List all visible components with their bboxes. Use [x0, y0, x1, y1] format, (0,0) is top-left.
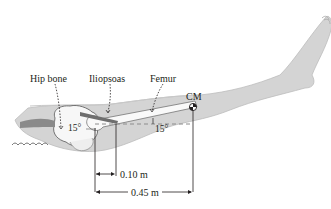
leg-diagram: Hip bone Iliopsoas Femur CM 15° 15° 0.10…: [0, 0, 331, 209]
cm-label: CM: [186, 91, 202, 102]
hip-bone-label: Hip bone: [30, 73, 68, 84]
femur-angle-label: 15°: [155, 124, 169, 134]
dim-0-45-label: 0.45 m: [131, 187, 159, 198]
muscle-angle-label: 15°: [68, 123, 82, 133]
dim-0-10-arrowhead-left: [96, 172, 100, 176]
dim-0-10-arrowhead: [111, 172, 115, 176]
dim-0-45-arrowhead-left: [96, 190, 100, 194]
wavy-tissue: [12, 143, 48, 145]
femur-label: Femur: [150, 73, 177, 84]
center-of-mass-icon: [189, 103, 196, 110]
iliopsoas-label: Iliopsoas: [89, 73, 125, 84]
dim-0-45-arrowhead-right: [188, 190, 192, 194]
dim-0-10-label: 0.10 m: [120, 169, 148, 180]
